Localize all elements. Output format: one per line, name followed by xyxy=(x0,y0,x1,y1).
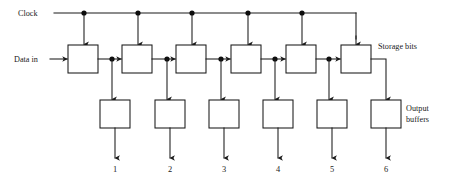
output-buffer-box-1 xyxy=(100,100,130,128)
clock-bus xyxy=(54,10,356,44)
output-buffer-box-6 xyxy=(371,100,401,128)
storage-bit-box-1 xyxy=(68,45,98,73)
shift-register-diagram: Clock Data in Storage bits Output buffer… xyxy=(0,0,450,184)
clock-junction-1 xyxy=(81,10,86,15)
output-label-2: 2 xyxy=(168,165,172,174)
output-buffer-box-3 xyxy=(209,100,239,128)
output-buffers-label-line1: Output xyxy=(406,104,429,113)
diagram-canvas: Clock Data in Storage bits Output buffer… xyxy=(0,0,450,184)
output-buffer-box-5 xyxy=(317,100,347,128)
output-label-5: 5 xyxy=(330,165,334,174)
clock-junction-3 xyxy=(189,10,194,15)
output-label-6: 6 xyxy=(384,165,388,174)
storage-bits-label: Storage bits xyxy=(378,42,417,51)
storage-bit-box-2 xyxy=(122,45,152,73)
clock-junction-2 xyxy=(135,10,140,15)
output-label-4: 4 xyxy=(276,165,281,174)
output-buffers-label-line2: buffers xyxy=(406,115,429,124)
output-buffer-boxes xyxy=(100,100,401,128)
storage-bit-box-4 xyxy=(231,45,261,73)
clock-label: Clock xyxy=(18,9,38,18)
clock-junction-5 xyxy=(299,10,304,15)
storage-bit-box-3 xyxy=(176,45,206,73)
output-arrows xyxy=(115,128,386,158)
storage-bit-box-5 xyxy=(286,45,316,73)
output-buffer-box-2 xyxy=(155,100,185,128)
clock-junction-4 xyxy=(245,10,250,15)
buffer-drop-6-elbow xyxy=(371,59,386,99)
output-label-1: 1 xyxy=(113,165,117,174)
data-in-label: Data in xyxy=(14,55,38,64)
output-label-3: 3 xyxy=(222,165,226,174)
output-buffer-box-4 xyxy=(263,100,293,128)
storage-bit-box-6 xyxy=(341,45,371,73)
